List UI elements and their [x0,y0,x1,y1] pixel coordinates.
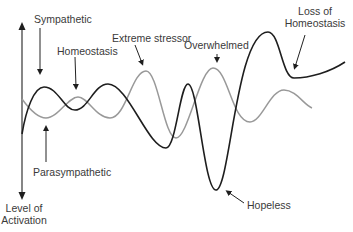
loss-of-homeostasis-arrow-icon [295,35,305,67]
axis-label-line2: Activation [0,214,48,226]
label-parasympathetic: Parasympathetic [33,166,111,178]
label-overwhelmed: Overwhelmed [184,39,249,51]
label-hopeless: Hopeless [247,199,291,211]
parasympathetic-curve [22,68,312,138]
activation-axis [19,22,26,200]
axis-up-arrow-icon [19,22,26,30]
homeostasis-arrow-icon [75,57,76,87]
label-extreme-stressor: Extreme stressor [112,32,191,44]
label-homeostasis: Homeostasis [57,45,118,57]
hopeless-arrow-icon [228,192,244,203]
label-loss-of-homeostasis: Loss of Homeostasis [282,5,348,29]
extreme-stressor-arrow-icon [135,45,142,63]
label-loss-line2: Homeostasis [282,17,348,29]
axis-label-line1: Level of [0,202,48,214]
label-sympathetic: Sympathetic [34,13,92,25]
label-loss-line1: Loss of [282,5,348,17]
axis-down-arrow-icon [19,192,26,200]
label-level-of-activation: Level of Activation [0,202,48,226]
